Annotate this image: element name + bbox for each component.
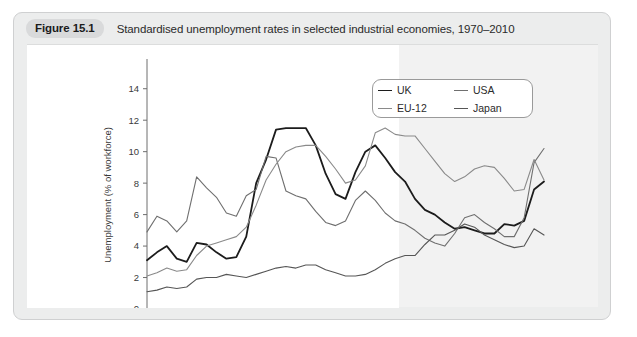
- y-tick-label: 6: [134, 209, 139, 220]
- series-line-eu-12: [147, 128, 544, 276]
- y-tick-label: 4: [134, 240, 139, 251]
- y-tick-label: 0: [134, 303, 139, 308]
- legend-swatch-usa-icon: [454, 90, 468, 91]
- legend-label: USA: [473, 84, 495, 96]
- y-tick-label: 2: [134, 272, 139, 283]
- figure-header: Figure 15.1 Standardised unemployment ra…: [14, 13, 610, 44]
- legend-label: UK: [397, 84, 412, 96]
- y-axis-title: Unemployment (% of workforce): [102, 127, 113, 263]
- y-tick-label: 12: [128, 115, 139, 126]
- series-line-uk: [147, 128, 544, 262]
- legend-swatch-eu-12-icon: [378, 108, 392, 109]
- y-tick-label: 10: [128, 146, 139, 157]
- legend-swatch-japan-icon: [454, 108, 468, 109]
- legend-item-usa: USA: [454, 81, 530, 99]
- legend-label: EU-12: [397, 102, 427, 114]
- legend-item-uk: UK: [378, 81, 454, 99]
- legend-item-japan: Japan: [454, 99, 530, 117]
- legend-item-eu-12: EU-12: [378, 99, 454, 117]
- figure-card: Figure 15.1 Standardised unemployment ra…: [13, 12, 611, 320]
- legend-label: Japan: [473, 102, 502, 114]
- y-tick-label: 14: [128, 83, 139, 94]
- legend-grid: UKUSAEU-12Japan: [373, 80, 532, 117]
- y-tick-label: 8: [134, 178, 139, 189]
- chart-legend: UKUSAEU-12Japan: [372, 79, 533, 118]
- figure-title: Standardised unemployment rates in selec…: [117, 23, 515, 35]
- legend-swatch-uk-icon: [378, 90, 392, 91]
- figure-number-badge: Figure 15.1: [26, 19, 104, 38]
